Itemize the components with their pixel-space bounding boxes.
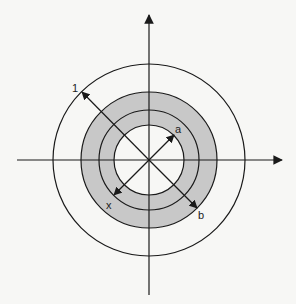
label-one: 1 [72,82,78,94]
annulus-diagram: 1 a x b [0,0,296,304]
label-a: a [175,123,182,135]
label-b: b [198,209,204,221]
label-x: x [106,199,112,211]
